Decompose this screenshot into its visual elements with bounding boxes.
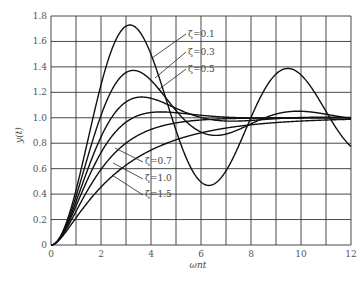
x-tick: 12 — [345, 249, 356, 259]
y-tick: 0.2 — [33, 215, 47, 225]
y-tick: 0.4 — [33, 189, 48, 199]
curve-label: ζ=0.5 — [188, 64, 215, 74]
x-axis-label: ωnt — [190, 260, 207, 270]
y-tick: 1.0 — [33, 113, 48, 123]
y-axis-label: y(t) — [14, 127, 24, 144]
y-tick: 1.6 — [33, 36, 48, 46]
curve-label: ζ=0.3 — [188, 47, 215, 57]
curve-labels: ζ=0.1ζ=0.3ζ=0.5ζ=0.7ζ=1.0ζ=1.5 — [112, 29, 215, 199]
x-tick: 8 — [248, 249, 254, 259]
x-tick: 6 — [198, 249, 204, 259]
curve-label: ζ=0.1 — [188, 29, 215, 39]
y-tick: 0.8 — [33, 138, 48, 148]
y-tick: 1.2 — [33, 87, 47, 97]
x-tick: 4 — [148, 249, 154, 259]
curve-label: ζ=1.0 — [145, 173, 172, 183]
x-tick: 10 — [295, 249, 307, 259]
y-tick: 0.6 — [33, 164, 48, 174]
curve-label: ζ=1.5 — [145, 189, 172, 199]
y-tick: 0 — [41, 240, 47, 250]
x-tick: 0 — [48, 249, 54, 259]
x-tick: 2 — [98, 249, 104, 259]
y-tick: 1.8 — [33, 11, 48, 21]
curve-label: ζ=0.7 — [145, 156, 172, 166]
y-tick: 1.4 — [33, 62, 48, 72]
step-response-chart: 02468101200.20.40.60.81.01.21.41.61.8 ζ=… — [0, 0, 363, 282]
